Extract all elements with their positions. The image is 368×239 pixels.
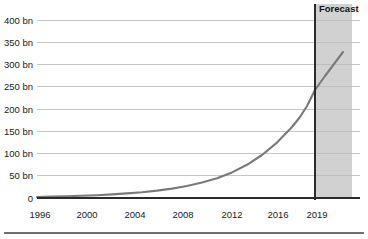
forecast-annotation-label: Forecast [319,3,359,14]
y-tick-label-100: 100 bn [4,148,33,159]
chart-container: 400 bn 350 bn 300 bn 250 bn 200 bn 150 b… [0,0,368,239]
y-tick-label-0: 0 [28,193,33,204]
y-axis-tick-labels: 400 bn 350 bn 300 bn 250 bn 200 bn 150 b… [4,15,33,204]
x-tick-label-2016: 2016 [267,209,288,220]
x-tick-label-1996: 1996 [29,209,50,220]
y-tick-label-300: 300 bn [4,59,33,70]
forecast-band-group [315,4,352,198]
y-tick-label-50: 50 bn [9,170,33,181]
line-chart: 400 bn 350 bn 300 bn 250 bn 200 bn 150 b… [0,0,368,239]
x-tick-label-2004: 2004 [124,209,145,220]
forecast-shaded-region [315,4,352,198]
x-tick-label-2000: 2000 [76,209,97,220]
y-tick-label-150: 150 bn [4,126,33,137]
chart-background [0,0,368,239]
y-tick-label-400: 400 bn [4,15,33,26]
y-tick-label-250: 250 bn [4,81,33,92]
y-tick-label-200: 200 bn [4,104,33,115]
x-tick-label-2012: 2012 [221,209,242,220]
y-tick-label-350: 350 bn [4,37,33,48]
x-tick-label-2019: 2019 [306,209,327,220]
x-tick-label-2008: 2008 [172,209,193,220]
